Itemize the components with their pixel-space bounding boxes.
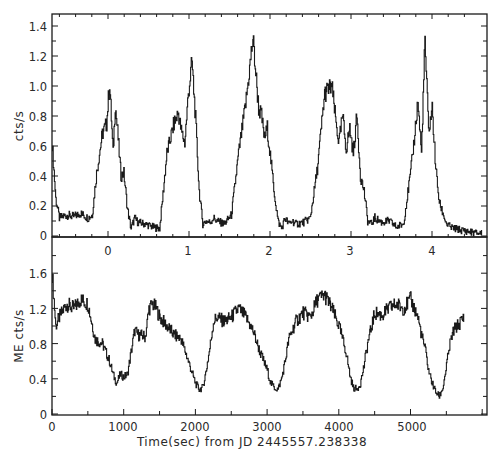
bottom-ytick-2: 0.8 xyxy=(29,338,47,352)
phase-tick-0: 0 xyxy=(104,244,111,258)
time-tick-4: 4000 xyxy=(324,420,353,434)
axis-tick-marks xyxy=(52,14,487,415)
phase-tick-1: 1 xyxy=(184,244,191,258)
time-tick-3: 3000 xyxy=(252,420,281,434)
top-ytick-2: 0.4 xyxy=(29,170,47,184)
bottom-ytick-4: 1.6 xyxy=(29,267,47,281)
x-axis-title: Time(sec) from JD 2445557.238338 xyxy=(136,435,367,449)
top-y-tick-labels: 0 0.2 0.4 0.6 0.8 1.0 1.2 1.4 xyxy=(29,20,47,243)
time-tick-1: 1000 xyxy=(108,420,137,434)
bottom-ytick-3: 1.2 xyxy=(29,303,47,317)
bottom-y-axis-title: ME cts/s xyxy=(12,309,26,363)
top-light-curve xyxy=(52,36,482,236)
top-ytick-0: 0 xyxy=(40,229,47,243)
bottom-y-tick-labels: 0 0.4 0.8 1.2 1.6 xyxy=(29,267,47,422)
top-ytick-7: 1.4 xyxy=(29,20,47,34)
top-ytick-3: 0.6 xyxy=(29,140,47,154)
light-curve-figure: 0 0.2 0.4 0.6 0.8 1.0 1.2 1.4 cts/s 0 1 … xyxy=(0,0,499,459)
phase-tick-labels: 0 1 2 3 4 xyxy=(104,244,435,258)
top-ytick-6: 1.2 xyxy=(29,50,47,64)
bottom-panel-frame xyxy=(52,237,487,415)
top-ytick-4: 0.8 xyxy=(29,110,47,124)
top-ytick-1: 0.2 xyxy=(29,199,47,213)
bottom-me-light-curve xyxy=(52,275,464,399)
phase-tick-4: 4 xyxy=(428,244,435,258)
phase-tick-3: 3 xyxy=(346,244,353,258)
top-y-axis-title: cts/s xyxy=(12,111,26,141)
bottom-ytick-1: 0.4 xyxy=(29,373,47,387)
time-tick-labels: 0 1000 2000 3000 4000 5000 xyxy=(48,420,426,434)
bottom-ytick-0: 0 xyxy=(40,408,47,422)
time-tick-5: 5000 xyxy=(397,420,426,434)
top-ytick-5: 1.0 xyxy=(29,80,47,94)
time-tick-0: 0 xyxy=(48,420,55,434)
time-tick-2: 2000 xyxy=(180,420,209,434)
phase-tick-2: 2 xyxy=(265,244,272,258)
